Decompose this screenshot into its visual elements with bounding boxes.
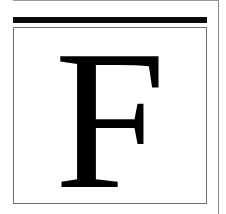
drop-cap-box: F <box>13 27 207 204</box>
heavy-black-bar <box>13 17 207 23</box>
right-column-rule <box>218 0 219 214</box>
drop-cap-letter: F <box>14 27 206 204</box>
top-rule-divider <box>13 0 218 1</box>
